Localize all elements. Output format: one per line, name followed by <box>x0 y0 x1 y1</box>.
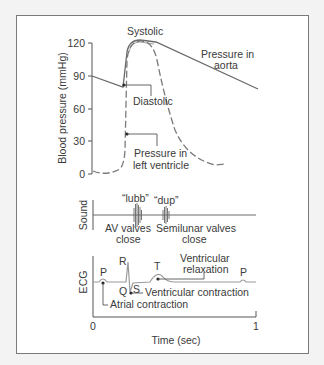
cardiac-cycle-diagram: 120 90 60 30 0 Blood pressure (mmHg) Dia… <box>0 0 324 365</box>
dup-label: “dup” <box>154 194 179 206</box>
ecg-p-label: P <box>100 266 107 278</box>
ytick-0: 0 <box>79 168 85 180</box>
left-ventricle-leader <box>127 134 157 146</box>
xtick-1: 1 <box>253 320 259 332</box>
ytick-60: 60 <box>73 103 85 115</box>
diastolic-label: Diastolic <box>133 95 173 107</box>
xtick-0: 0 <box>90 320 96 332</box>
ytick-90: 90 <box>73 70 85 82</box>
av-valves-label-line2: close <box>116 233 141 245</box>
ecg-p2-label: P <box>240 266 247 278</box>
systolic-label: Systolic <box>127 25 163 37</box>
ventricular-contraction-label: Ventricular contraction <box>145 286 249 298</box>
semilunar-label-line2: close <box>182 233 207 245</box>
pressure-y-label: Blood pressure (mmHg) <box>56 52 68 163</box>
sound-y-label: Sound <box>77 200 89 231</box>
ecg-panel: ECG P R Q S T P Atrial contraction Ventr… <box>77 252 259 346</box>
ventricle-label-line2: left ventricle <box>133 159 189 171</box>
ventricle-label-line1: Pressure in <box>134 147 187 159</box>
lubb-label: “lubb” <box>122 192 149 204</box>
ytick-120: 120 <box>67 37 85 49</box>
ventricular-relaxation-label-line2: relaxation <box>183 263 229 275</box>
ecg-r-label: R <box>119 255 127 267</box>
x-axis-label: Time (sec) <box>151 334 200 346</box>
ecg-y-label: ECG <box>77 271 89 294</box>
ytick-30: 30 <box>73 135 85 147</box>
ecg-q-label: Q <box>119 285 127 297</box>
atrial-contraction-label: Atrial contraction <box>110 298 188 310</box>
atrial-leader <box>103 283 108 305</box>
aorta-label-line2: aorta <box>214 59 238 71</box>
ecg-t-label: T <box>154 260 161 272</box>
sound-panel: Sound “lubb” “dup” AV valves close Semil… <box>77 192 256 245</box>
pressure-panel: 120 90 60 30 0 Blood pressure (mmHg) Dia… <box>56 25 258 180</box>
